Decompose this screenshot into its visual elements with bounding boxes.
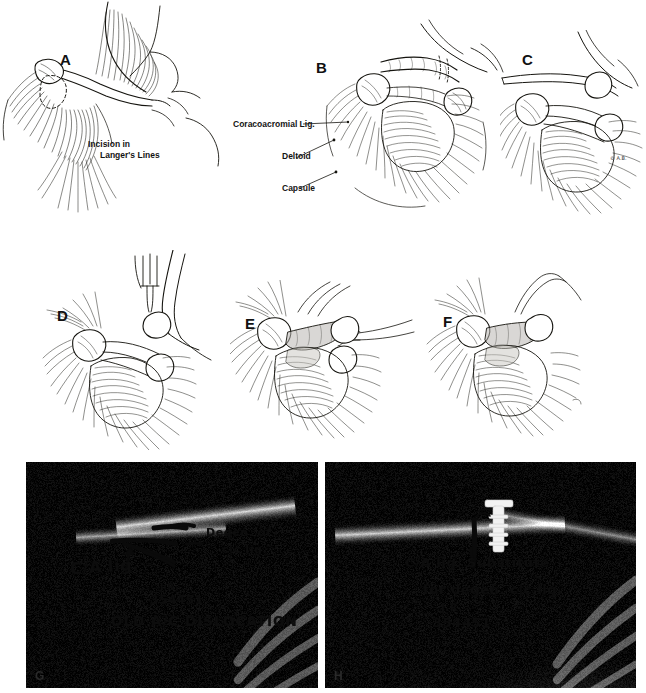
panel-e-illustration <box>230 280 430 455</box>
annotation-substitute-line1: C/A lig. Substitute <box>405 555 550 570</box>
label-incision-line2: Langer's Lines <box>100 150 160 160</box>
panel-c: C © A.B. <box>500 30 646 230</box>
radiograph-letter-g: G <box>35 669 44 683</box>
label-leader-lines <box>230 110 370 205</box>
annotation-degen-line1: Degen. of <box>206 526 272 539</box>
annotation-substitute-line2: for degen. c|c lig. <box>423 582 563 597</box>
annotation-diagnosis: OLD A/C DISLOCATION <box>111 613 298 629</box>
annotation-degen-line2: c|c lig. <box>222 543 267 556</box>
panel-e: E <box>230 280 430 455</box>
artist-signature: © A.B. <box>610 155 627 161</box>
radiograph-h: C/A lig. Substitute for degen. c|c lig. … <box>325 462 636 688</box>
panel-letter-a: A <box>60 52 71 67</box>
annotation-case-number-h: 354451 <box>433 615 491 630</box>
panel-d-illustration <box>25 250 225 450</box>
annotation-initials-h: J.R. <box>441 602 463 613</box>
panel-letter-e: E <box>245 316 256 331</box>
panel-f-illustration <box>425 272 625 457</box>
annotation-initials-g: J.R. <box>160 582 179 592</box>
radiograph-letter-h: H <box>334 669 343 683</box>
surgical-figure-plate: A Incision in Langer's Lines <box>0 0 646 693</box>
panel-letter-b: B <box>316 60 327 75</box>
annotation-case-number-g: 354451 <box>150 593 204 607</box>
label-incision-line1: Incision in <box>88 139 130 149</box>
radiograph-h-markings <box>325 462 636 688</box>
radiograph-g: C/A lig. Degen. of c|c lig. J.R. 354451 … <box>26 462 318 688</box>
panel-letter-f: F <box>443 314 453 329</box>
panel-a-illustration <box>0 0 240 230</box>
panel-f: F <box>425 272 625 457</box>
panel-d: D <box>25 250 225 450</box>
panel-letter-d: D <box>57 308 68 323</box>
panel-letter-c: C <box>522 52 533 67</box>
panel-a: A Incision in Langer's Lines <box>0 0 240 230</box>
